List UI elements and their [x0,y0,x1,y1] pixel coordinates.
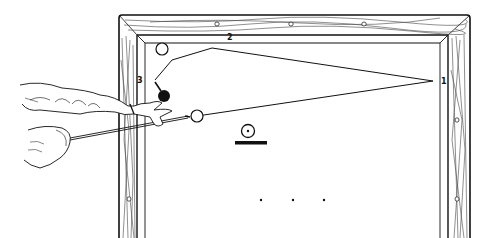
diamond-marker [127,197,131,201]
wood-grain-right [451,35,467,238]
bridge-hand [20,83,172,126]
cushion-label-2: 2 [227,33,233,42]
wood-grain-top [124,17,467,34]
diamond-marker [362,22,366,26]
dot [323,199,325,201]
diamond-marker [455,118,459,122]
wood-grain-left [121,36,135,238]
dot [292,199,294,201]
cue-ball [191,110,203,122]
cushion-label-3: 3 [137,76,143,85]
diamond-marker [289,22,293,26]
object-ball-black [158,90,170,102]
diamond-marker [455,197,459,201]
cushion-label-1: 1 [441,77,447,86]
grip-hand [24,126,70,168]
dot [260,199,262,201]
ellipsis-dots [260,199,325,201]
ball-on-table-symbol [235,125,267,145]
ball-path [155,48,433,116]
diamond-marker [215,22,219,26]
table-frame [119,15,470,238]
rail-diamonds [127,22,459,201]
object-ball-stroke [155,82,161,91]
billiards-diagram: 2 3 1 [0,0,487,238]
object-ball-white [156,43,168,55]
